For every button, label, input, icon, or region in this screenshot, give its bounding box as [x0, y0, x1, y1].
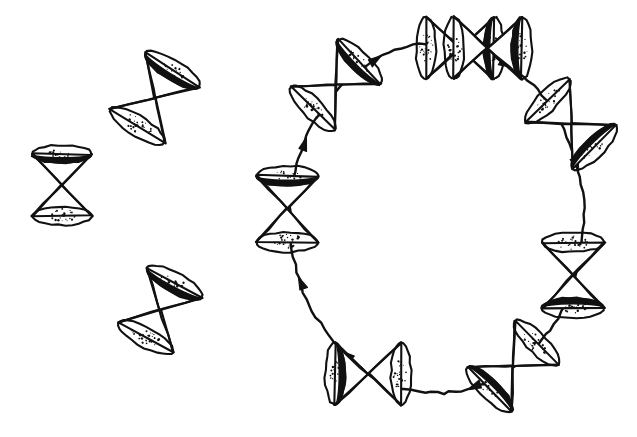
cone-past-shading: [454, 55, 456, 57]
cone-future-shading: [66, 158, 68, 160]
cone-past-shading: [565, 241, 567, 243]
cone-past-shading: [279, 234, 281, 236]
cone-future-shading: [276, 181, 277, 182]
cone-past-shading: [280, 237, 282, 239]
cone-future-shading: [293, 177, 295, 179]
cone-future-shading: [69, 160, 71, 162]
cone-past-shading: [424, 52, 425, 53]
cone-past-shading: [403, 365, 404, 366]
cone-past-shading: [48, 215, 49, 216]
cone-past-shading: [397, 381, 398, 382]
cone-future-shading: [565, 307, 567, 309]
cone-future-shading: [526, 46, 527, 47]
cone-past-shading: [291, 238, 293, 240]
cone-future-shading: [57, 154, 58, 155]
cone-past-shading: [288, 245, 289, 246]
cone-future-shading: [279, 175, 280, 176]
cone-past-shading: [458, 56, 459, 57]
cone-past-shading: [569, 244, 570, 245]
cone-future-shading: [279, 178, 281, 180]
cone-future-shading: [524, 39, 525, 40]
cone-future-shading: [487, 40, 489, 42]
cone-past-shading: [432, 44, 433, 45]
cone-past-shading: [425, 44, 427, 46]
cone-future-shading: [583, 304, 584, 305]
cone-future-shading: [55, 154, 57, 156]
cone-future-shading: [340, 369, 342, 371]
cone-past-shading: [55, 211, 56, 212]
cone-past-shading: [431, 43, 432, 44]
cone-past-shading: [571, 239, 572, 240]
cone-future-shading: [292, 173, 293, 174]
cone-past-shading: [292, 245, 294, 247]
cone-future-shading: [330, 377, 332, 379]
cone-future-shading: [514, 55, 515, 56]
cone-future-shading: [517, 46, 519, 48]
cone-future-shading: [283, 171, 285, 173]
cone-past-shading: [450, 58, 451, 59]
cone-past-shading: [560, 246, 561, 247]
cone-future-shading: [516, 45, 517, 46]
cone-past-shading: [62, 208, 63, 209]
cone-past-shading: [399, 365, 400, 366]
cone-future-shading: [523, 57, 525, 59]
cone-past-shading: [292, 241, 293, 242]
cone-future-shading: [299, 176, 301, 178]
cone-past-shading: [561, 240, 563, 242]
cone-past-shading: [290, 235, 291, 236]
cone-future-shading: [576, 306, 578, 308]
cone-past-shading: [423, 35, 424, 36]
cone-future-shading: [569, 300, 571, 302]
cone-past-shading: [397, 375, 398, 376]
cone-past-shading: [396, 384, 398, 386]
cone-future-shading: [576, 301, 577, 302]
cone-future-shading: [52, 155, 54, 157]
cone-future-shading: [330, 370, 332, 372]
cone-past-shading: [423, 54, 425, 56]
cone-past-shading: [60, 217, 61, 218]
cone-past-shading: [393, 376, 395, 378]
cone-past-shading: [424, 60, 426, 62]
cone-future-shading: [290, 175, 291, 176]
cone-past-shading: [401, 380, 403, 382]
cone-future-shading: [297, 176, 298, 177]
cone-past-shading: [57, 215, 58, 216]
cone-past-shading: [574, 243, 575, 244]
cone-future-shading: [289, 176, 291, 178]
cone-future-shading: [586, 307, 588, 309]
cone-past-shading: [394, 372, 396, 374]
cone-past-shading: [447, 44, 449, 46]
cone-future-shading: [280, 172, 281, 173]
cone-past-shading: [421, 48, 423, 50]
cone-past-shading: [274, 242, 276, 244]
cone-past-shading: [283, 243, 285, 245]
cone-past-shading: [396, 373, 397, 374]
cone-past-shading: [62, 214, 64, 216]
cone-past-shading: [399, 372, 400, 373]
cone-past-shading: [398, 386, 399, 387]
cone-past-shading: [284, 242, 286, 244]
cone-past-shading: [400, 364, 401, 365]
cone-future-shading: [571, 306, 573, 308]
cone-future-shading: [60, 151, 61, 152]
cone-past-shading: [426, 42, 428, 44]
cone-future-shading: [568, 304, 571, 307]
cone-past-shading: [397, 360, 399, 362]
cone-past-shading: [70, 212, 71, 213]
cone-past-shading: [281, 239, 283, 241]
cone-past-shading: [583, 247, 585, 249]
cone-past-shading: [456, 38, 458, 40]
cone-future-shading: [519, 40, 520, 41]
cone-past-shading: [282, 235, 284, 237]
cone-future-shading: [293, 175, 295, 177]
cone-future-shading: [525, 56, 527, 58]
cone-past-shading: [568, 244, 570, 246]
cone-past-shading: [399, 374, 400, 375]
cone-past-shading: [426, 54, 427, 55]
cone-future-shading: [335, 380, 336, 381]
cone-past-shading: [427, 49, 429, 51]
cone-past-shading: [405, 371, 407, 373]
cone-future-shading: [573, 306, 575, 308]
cone-future-shading: [562, 308, 563, 309]
cone-past-shading: [67, 220, 68, 221]
